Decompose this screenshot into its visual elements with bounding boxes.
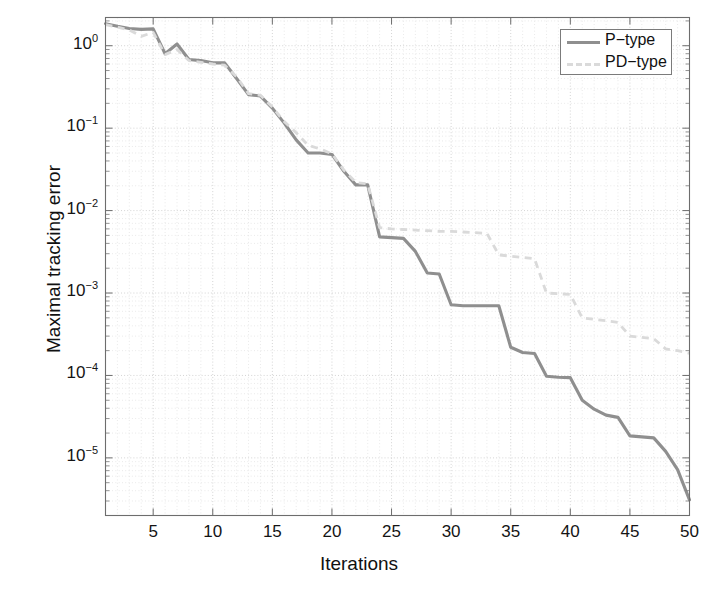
- figure-canvas: 10010−110−210−310−410−5 5101520253035404…: [0, 0, 718, 593]
- legend-label-pd-type: PD−type: [605, 53, 667, 71]
- y-tick-label: 100: [42, 34, 98, 54]
- minor-gridlines: [106, 18, 690, 516]
- y-axis-title: Maximal tracking error: [43, 109, 65, 409]
- axis-ticks: [106, 18, 690, 516]
- x-tick-label: 5: [128, 522, 178, 542]
- x-tick-label: 50: [665, 522, 715, 542]
- y-tick-label: 10−5: [42, 446, 98, 466]
- legend-swatch-p-type: [567, 41, 600, 44]
- legend-label-p-type: P−type: [605, 31, 655, 49]
- x-tick-label: 35: [486, 522, 536, 542]
- axes-border: [106, 18, 690, 516]
- major-gridlines: [106, 18, 690, 516]
- x-tick-label: 10: [188, 522, 238, 542]
- x-tick-label: 45: [605, 522, 655, 542]
- x-tick-label: 30: [426, 522, 476, 542]
- x-tick-label: 15: [247, 522, 297, 542]
- legend-entry-pd-type[interactable]: PD−type: [561, 52, 673, 75]
- legend[interactable]: P−type PD−type: [560, 29, 672, 75]
- legend-swatch-pd-type: [567, 63, 600, 66]
- plot-svg: [0, 0, 718, 593]
- data-series-layer: [106, 24, 690, 500]
- x-tick-label: 40: [545, 522, 595, 542]
- x-axis-title: Iterations: [0, 553, 718, 575]
- series-p-type: [106, 24, 690, 500]
- x-tick-label: 25: [367, 522, 417, 542]
- x-tick-label: 20: [307, 522, 357, 542]
- legend-entry-p-type[interactable]: P−type: [561, 30, 673, 53]
